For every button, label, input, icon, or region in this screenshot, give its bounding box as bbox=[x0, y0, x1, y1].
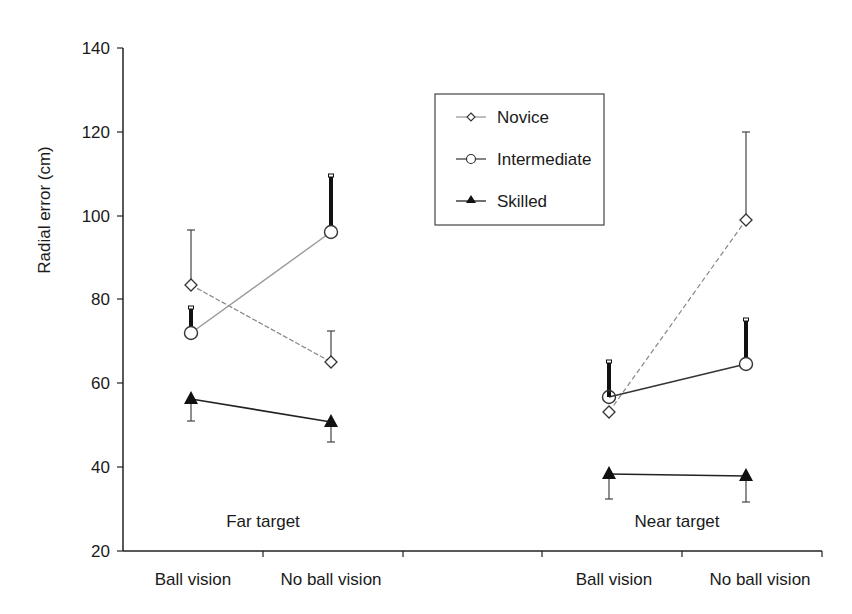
y-tick-label: 140 bbox=[82, 39, 110, 58]
circle-marker bbox=[185, 327, 198, 340]
group-label-near-target: Near target bbox=[634, 512, 719, 531]
x-tick-label: Ball vision bbox=[155, 570, 232, 589]
x-tick-label: No ball vision bbox=[280, 570, 381, 589]
y-tick-label: 120 bbox=[82, 123, 110, 142]
circle-icon bbox=[467, 155, 476, 164]
triangle-marker bbox=[739, 468, 753, 481]
legend: Novice Intermediate Skilled bbox=[435, 94, 604, 225]
circle-marker bbox=[325, 226, 338, 239]
triangle-marker bbox=[184, 391, 198, 404]
diamond-marker bbox=[325, 356, 337, 368]
radial-error-chart: 140 120 100 80 60 40 20 Radial error (cm… bbox=[0, 0, 852, 614]
series-skilled bbox=[184, 391, 753, 502]
x-tick-label: Ball vision bbox=[576, 570, 653, 589]
x-tick-label: No ball vision bbox=[709, 570, 810, 589]
x-axis: Ball vision No ball vision Ball vision N… bbox=[123, 551, 822, 589]
y-axis-title: Radial error (cm) bbox=[35, 146, 54, 274]
circle-marker bbox=[740, 358, 753, 371]
diamond-marker bbox=[603, 406, 615, 418]
legend-label: Intermediate bbox=[497, 150, 592, 169]
y-tick-label: 100 bbox=[82, 207, 110, 226]
y-tick-label: 80 bbox=[91, 290, 110, 309]
y-axis: 140 120 100 80 60 40 20 Radial error (cm… bbox=[35, 39, 123, 561]
legend-label: Novice bbox=[497, 108, 549, 127]
diamond-marker bbox=[185, 279, 197, 291]
y-tick-label: 40 bbox=[91, 458, 110, 477]
y-tick-label: 60 bbox=[91, 374, 110, 393]
group-label-far-target: Far target bbox=[226, 512, 300, 531]
triangle-marker bbox=[602, 466, 616, 479]
legend-label: Skilled bbox=[497, 192, 547, 211]
diamond-marker bbox=[740, 214, 752, 226]
y-tick-label: 20 bbox=[91, 542, 110, 561]
